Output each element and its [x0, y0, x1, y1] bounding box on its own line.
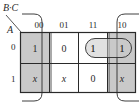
cell-a0-bc10-label: 1 — [109, 33, 135, 63]
cell-a0-bc11-label: 1 — [79, 33, 107, 63]
